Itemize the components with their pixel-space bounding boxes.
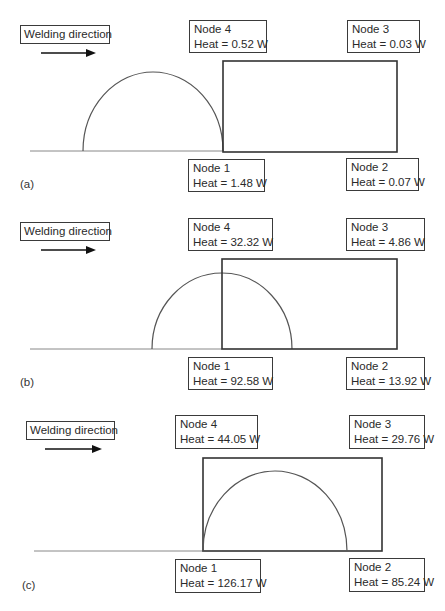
panel-b-geometry: [30, 246, 397, 349]
node-2-name: Node 2: [354, 560, 420, 575]
node-2-heat: Heat = 85.24 W: [354, 575, 420, 590]
arrow-head-icon: [92, 445, 102, 453]
node-2-box: Node 2 Heat = 13.92 W: [346, 357, 425, 390]
node-2-box: Node 2 Heat = 0.07 W: [346, 158, 419, 191]
node-3-heat: Heat = 4.86 W: [351, 235, 420, 250]
node-3-box: Node 3 Heat = 4.86 W: [346, 218, 425, 251]
node-3-heat: Heat = 0.03 W: [352, 37, 415, 52]
node-2-name: Node 2: [351, 359, 420, 374]
node-4-box: Node 4 Heat = 44.05 W: [175, 415, 258, 449]
node-3-name: Node 3: [354, 417, 420, 432]
element-rectangle: [223, 61, 397, 152]
node-1-box: Node 1 Heat = 1.48 W: [188, 159, 265, 192]
node-1-heat: Heat = 126.17 W: [180, 576, 256, 591]
node-4-box: Node 4 Heat = 0.52 W: [189, 20, 267, 53]
node-1-name: Node 1: [193, 161, 260, 176]
node-4-heat: Heat = 44.05 W: [180, 432, 253, 447]
panel-a-geometry: [30, 49, 397, 152]
node-1-name: Node 1: [180, 561, 256, 576]
node-2-box: Node 2 Heat = 85.24 W: [349, 558, 425, 592]
welding-direction-label: Welding direction: [26, 421, 115, 440]
panel-label: (a): [20, 178, 34, 190]
weld-pool-arc: [83, 72, 223, 151]
node-3-name: Node 3: [352, 22, 415, 37]
element-rectangle: [203, 458, 382, 551]
node-4-heat: Heat = 0.52 W: [194, 37, 262, 52]
welding-direction-text: Welding direction: [24, 225, 112, 237]
panel-label: (c): [22, 579, 35, 591]
diagram-geometry: [0, 0, 445, 611]
node-3-name: Node 3: [351, 220, 420, 235]
welding-direction-text: Welding direction: [24, 28, 112, 40]
node-1-heat: Heat = 92.58 W: [193, 374, 268, 389]
welding-direction-label: Welding direction: [20, 222, 110, 241]
node-1-name: Node 1: [193, 359, 268, 374]
node-4-name: Node 4: [194, 22, 262, 37]
arrow-head-icon: [86, 49, 96, 57]
element-rectangle: [222, 259, 397, 349]
node-3-heat: Heat = 29.76 W: [354, 432, 420, 447]
node-1-box: Node 1 Heat = 126.17 W: [175, 559, 261, 593]
panel-label: (b): [20, 376, 34, 388]
node-4-name: Node 4: [180, 417, 253, 432]
node-2-heat: Heat = 13.92 W: [351, 374, 420, 389]
node-4-heat: Heat = 32.32 W: [193, 235, 268, 250]
node-1-box: Node 1 Heat = 92.58 W: [188, 357, 273, 390]
weld-pool-arc: [203, 471, 347, 551]
welding-direction-label: Welding direction: [20, 25, 110, 44]
node-3-box: Node 3 Heat = 0.03 W: [347, 20, 420, 53]
node-2-name: Node 2: [351, 160, 414, 175]
arrow-head-icon: [86, 246, 96, 254]
welding-direction-text: Welding direction: [30, 424, 118, 436]
node-4-name: Node 4: [193, 220, 268, 235]
node-1-heat: Heat = 1.48 W: [193, 176, 260, 191]
node-2-heat: Heat = 0.07 W: [351, 175, 414, 190]
node-3-box: Node 3 Heat = 29.76 W: [349, 415, 425, 449]
panel-c-geometry: [34, 445, 382, 551]
node-4-box: Node 4 Heat = 32.32 W: [188, 218, 273, 251]
